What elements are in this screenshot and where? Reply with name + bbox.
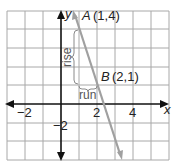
point-a-name: A xyxy=(81,8,91,23)
coordinate-plane: y x −2 2 4 −2 A (1,4) B (2,1) rise run xyxy=(0,0,174,166)
point-b-coords: (2,1) xyxy=(112,69,139,84)
x-tick-4: 4 xyxy=(129,105,136,120)
y-tick-neg2: −2 xyxy=(53,118,68,133)
grid xyxy=(7,11,169,160)
rise-label: rise xyxy=(60,47,74,67)
x-tick-neg2: −2 xyxy=(17,105,32,120)
x-tick-2: 2 xyxy=(93,105,100,120)
run-label: run xyxy=(79,88,96,102)
x-axis-label: x xyxy=(163,102,171,117)
x-axis-left-arrow-icon xyxy=(5,100,14,108)
point-b-name: B xyxy=(101,69,110,84)
point-a-coords: (1,4) xyxy=(93,8,120,23)
line-bottom-arrow-icon xyxy=(117,150,123,160)
y-axis-label: y xyxy=(64,6,73,21)
